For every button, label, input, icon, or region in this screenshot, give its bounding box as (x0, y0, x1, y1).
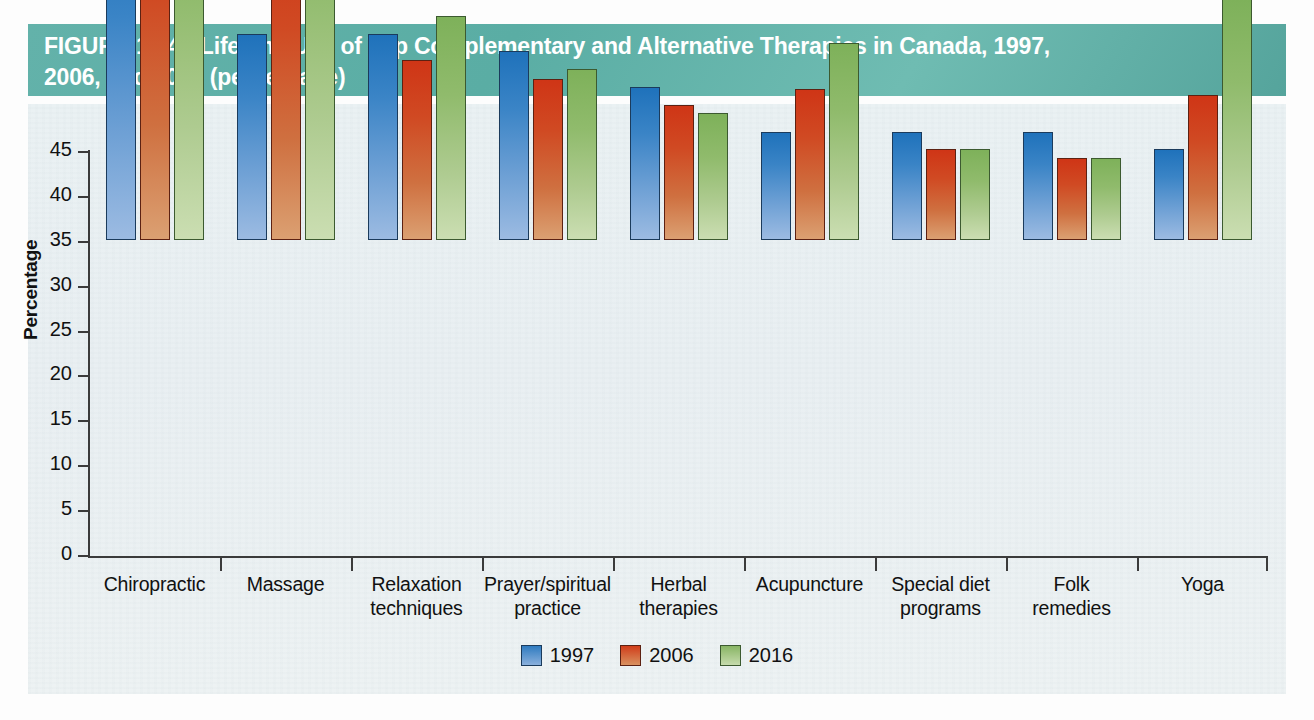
legend-label-2016: 2016 (749, 644, 794, 667)
bar-2006-special-diet-programs (926, 149, 956, 240)
x-axis-tick (1137, 558, 1139, 571)
bar-2006-acupuncture (795, 89, 825, 240)
chart-legend: 199720062016 (28, 644, 1286, 667)
y-axis-tick (78, 465, 89, 467)
legend-label-1997: 1997 (550, 644, 595, 667)
bar-2006-relaxation-techniques (402, 60, 432, 240)
x-axis-tick (875, 558, 877, 571)
legend-label-2006: 2006 (649, 644, 694, 667)
y-axis-tick (78, 286, 89, 288)
bar-1997-relaxation-techniques (368, 34, 398, 240)
bar-2016-herbal-therapies (698, 113, 728, 240)
bar-2016-prayer-spiritual-practice (567, 69, 597, 240)
bar-2006-yoga (1188, 95, 1218, 240)
x-axis-tick (351, 558, 353, 571)
bar-1997-chiropractic (106, 0, 136, 240)
y-axis-tick (78, 241, 89, 243)
bar-2016-folk-remedies (1091, 158, 1121, 240)
bar-2016-massage (305, 0, 335, 240)
y-axis-tick-label: 35 (24, 228, 72, 251)
bar-2016-relaxation-techniques (436, 16, 466, 240)
bar-2016-special-diet-programs (960, 149, 990, 240)
legend-swatch-2016 (720, 645, 741, 666)
figure-container: FIGURE 12.4Lifetime Use of Top Complemen… (0, 0, 1314, 720)
bar-group (237, 0, 335, 240)
bar-1997-herbal-therapies (630, 87, 660, 240)
x-axis-tick (613, 558, 615, 571)
y-axis-tick-label: 40 (24, 183, 72, 206)
bar-group (630, 0, 728, 240)
bar-1997-yoga (1154, 149, 1184, 240)
x-axis-tick (482, 558, 484, 571)
y-axis-line (88, 150, 90, 558)
x-axis-line (88, 556, 1268, 558)
y-axis-tick (78, 510, 89, 512)
y-axis-tick (78, 151, 89, 153)
bar-2006-prayer-spiritual-practice (533, 79, 563, 240)
bar-1997-acupuncture (761, 132, 791, 240)
x-axis-label-line: Yoga (1123, 572, 1282, 596)
x-axis-label-line: therapies (599, 596, 758, 620)
x-axis-tick (1006, 558, 1008, 571)
bar-group (1023, 0, 1121, 240)
legend-swatch-2006 (620, 645, 641, 666)
y-axis-tick (78, 196, 89, 198)
y-axis-tick-label: 25 (24, 318, 72, 341)
legend-item-2006[interactable]: 2006 (620, 644, 694, 667)
chart-panel: Percentage 051015202530354045 Chiropract… (28, 104, 1286, 694)
bar-2006-herbal-therapies (664, 105, 694, 240)
y-axis-tick-label: 30 (24, 273, 72, 296)
y-axis-tick (78, 331, 89, 333)
y-axis-tick-label: 45 (24, 138, 72, 161)
x-axis-label-yoga: Yoga (1123, 572, 1282, 596)
y-axis-tick-label: 0 (24, 542, 72, 565)
bar-1997-folk-remedies (1023, 132, 1053, 240)
y-axis-tick (78, 420, 89, 422)
bar-group (892, 0, 990, 240)
legend-swatch-1997 (521, 645, 542, 666)
bar-2016-chiropractic (174, 0, 204, 240)
y-axis-tick (78, 555, 89, 557)
y-axis-tick-label: 5 (24, 497, 72, 520)
y-axis-tick-label: 10 (24, 452, 72, 475)
legend-item-1997[interactable]: 1997 (521, 644, 595, 667)
bar-group (499, 0, 597, 240)
x-axis-label-line: remedies (992, 596, 1151, 620)
bar-2016-yoga (1222, 0, 1252, 240)
y-axis-tick-label: 15 (24, 407, 72, 430)
legend-item-2016[interactable]: 2016 (720, 644, 794, 667)
bar-2006-folk-remedies (1057, 158, 1087, 240)
bar-2006-chiropractic (140, 0, 170, 240)
bar-2006-massage (271, 0, 301, 240)
x-axis-tick (220, 558, 222, 571)
x-axis-tick (744, 558, 746, 571)
y-axis-tick (78, 375, 89, 377)
bar-group (761, 0, 859, 240)
bar-group (106, 0, 204, 240)
bar-1997-special-diet-programs (892, 132, 922, 240)
y-axis-tick-label: 20 (24, 362, 72, 385)
x-axis-tick (1266, 558, 1268, 571)
bar-group (368, 0, 466, 240)
bar-1997-prayer-spiritual-practice (499, 51, 529, 240)
bar-group (1154, 0, 1252, 240)
bar-1997-massage (237, 34, 267, 240)
bar-2016-acupuncture (829, 43, 859, 240)
